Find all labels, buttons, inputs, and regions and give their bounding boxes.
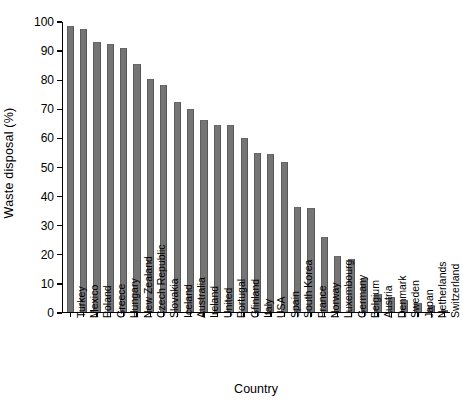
x-axis-tick-label: Mexico: [88, 285, 102, 318]
x-axis-tick-label: Slovakia: [168, 278, 182, 318]
bar: [120, 48, 127, 311]
y-axis-tick: [57, 80, 62, 81]
x-axis-tick-label: Australia: [195, 277, 209, 318]
y-axis-tick-label: 40: [41, 190, 54, 204]
y-axis-tick-label: 10: [41, 277, 54, 291]
x-axis-tick-label: Ireland: [208, 286, 222, 318]
x-axis-tick-label: Sweden: [409, 280, 423, 318]
y-axis-tick: [57, 50, 62, 51]
x-axis-tick-label: Switzerland: [449, 264, 463, 318]
y-axis-label: Waste disposal (%): [2, 8, 20, 318]
bar: [133, 64, 140, 311]
x-axis-tick-label: Hungary: [128, 278, 142, 318]
x-axis-tick-label: Turkey: [75, 286, 89, 318]
bar: [107, 44, 114, 312]
x-axis-tick-label: United: [222, 288, 236, 318]
y-axis-tick: [57, 312, 62, 313]
x-axis-tick-label: Czech Republic: [155, 244, 169, 318]
x-axis-tick-label: Germany: [356, 275, 370, 318]
y-axis-tick-label: 70: [41, 102, 54, 116]
bar: [67, 26, 74, 311]
x-axis-tick: [70, 313, 71, 317]
x-axis-tick-label: Gfinland: [249, 279, 263, 318]
x-axis-tick-label: Portugal: [235, 279, 249, 318]
y-axis-tick-label: 100: [34, 15, 54, 29]
bar: [214, 125, 221, 311]
bar: [267, 154, 274, 311]
x-axis-tick-label: Poland: [101, 285, 115, 318]
y-axis-tick-label: 0: [47, 306, 54, 320]
y-axis-tick: [57, 109, 62, 110]
x-axis-tick-label: South Korea: [302, 260, 316, 318]
x-axis-tick-label: Norway: [329, 282, 343, 318]
y-axis-tick-label: 50: [41, 161, 54, 175]
bar: [281, 162, 288, 312]
y-axis-line: [62, 22, 63, 313]
y-axis-tick-label: 60: [41, 131, 54, 145]
y-axis-tick: [57, 167, 62, 168]
y-axis-tick: [57, 196, 62, 197]
x-axis-tick-label: Luxembourg: [342, 260, 356, 318]
y-axis-tick-label: 30: [41, 219, 54, 233]
y-axis-tick-label: 90: [41, 44, 54, 58]
plot-area: 0102030405060708090100: [62, 22, 450, 313]
y-axis-tick: [57, 225, 62, 226]
y-axis-tick: [57, 283, 62, 284]
x-axis-tick-label: Italy: [262, 299, 276, 318]
x-axis-tick-label: USA: [275, 296, 289, 318]
x-axis-tick-label: Netherlands: [436, 261, 450, 318]
x-axis-tick-label: Iceland: [182, 284, 196, 318]
y-axis-tick: [57, 138, 62, 139]
y-axis-tick: [57, 21, 62, 22]
x-axis-tick-label: Denmark: [396, 275, 410, 318]
x-axis-tick-label: Spain: [289, 291, 303, 318]
x-axis-tick-label: New Zealand: [142, 256, 156, 318]
y-axis-tick: [57, 254, 62, 255]
x-axis-label: Country: [62, 382, 450, 396]
x-axis-tick-label: France: [316, 285, 330, 318]
bar: [227, 125, 234, 311]
x-axis-tick-label: Japan: [423, 289, 437, 318]
x-axis-tick-label: Belgium: [369, 280, 383, 318]
y-axis-tick-label: 20: [41, 248, 54, 262]
x-axis-tick-label: Greece: [115, 284, 129, 318]
bar: [80, 29, 87, 311]
x-axis-tick-label: Austria: [382, 285, 396, 318]
bar: [93, 42, 100, 311]
y-axis-tick-label: 80: [41, 73, 54, 87]
bar: [187, 109, 194, 311]
waste-disposal-bar-chart: Waste disposal (%) 010203040506070809010…: [0, 0, 463, 408]
